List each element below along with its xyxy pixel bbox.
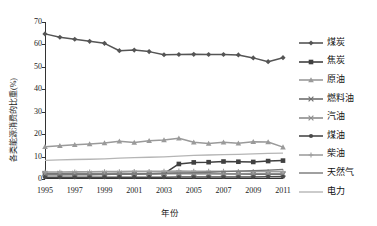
data-point-marker: [251, 175, 255, 179]
data-point-marker: [207, 175, 211, 179]
legend-item-柴油[interactable]: 柴油: [298, 144, 376, 163]
legend-marker-icon: [298, 35, 324, 47]
data-point-marker: [72, 37, 77, 42]
legend-item-原油[interactable]: 原油: [298, 69, 376, 88]
data-point-marker: [266, 59, 271, 64]
data-point-marker: [176, 52, 181, 57]
legend-item-电力[interactable]: 电力: [298, 181, 376, 200]
data-point-marker: [57, 35, 62, 40]
legend-marker-icon: [298, 54, 324, 66]
legend-item-label: 柴油: [327, 146, 345, 159]
x-tick-label: 2011: [266, 186, 300, 195]
legend-marker-icon: [298, 72, 324, 84]
data-point-marker: [206, 52, 211, 57]
data-point-marker: [251, 55, 256, 60]
series-line: [45, 34, 283, 62]
legend-item-天然气[interactable]: 天然气: [298, 162, 376, 181]
legend-item-label: 电力: [327, 184, 345, 197]
data-point-marker: [132, 47, 137, 52]
data-point-marker: [117, 48, 122, 53]
legend-marker-icon: [298, 147, 324, 159]
data-point-marker: [221, 52, 226, 57]
data-point-marker: [117, 175, 121, 179]
legend-item-label: 原油: [327, 72, 345, 85]
data-point-marker: [191, 52, 196, 57]
line-chart-figure: 各类能源消费的比重(%) 010203040506070 19951997199…: [0, 0, 377, 226]
data-point-marker: [192, 175, 196, 179]
legend-item-label: 煤油: [327, 128, 345, 141]
legend-marker-icon: [298, 110, 324, 122]
legend-item-燃料油[interactable]: 燃料油: [298, 88, 376, 107]
data-point-marker: [281, 158, 286, 163]
data-point-marker: [177, 162, 182, 167]
data-point-marker: [236, 52, 241, 57]
plot-area: [45, 22, 283, 179]
data-point-marker: [87, 39, 92, 44]
data-point-marker: [102, 175, 106, 179]
data-point-marker: [206, 160, 211, 165]
series-line: [45, 153, 283, 160]
series-8: [45, 153, 283, 160]
data-point-marker: [309, 60, 314, 65]
legend-item-label: 天然气: [327, 165, 354, 178]
data-point-marker: [281, 175, 285, 179]
data-point-marker: [266, 175, 270, 179]
data-point-marker: [147, 175, 151, 179]
series-2: [42, 135, 286, 149]
legend-item-焦炭[interactable]: 焦炭: [298, 51, 376, 70]
legend-item-煤油[interactable]: 煤油: [298, 125, 376, 144]
data-point-marker: [147, 49, 152, 54]
legend-marker-icon: [298, 184, 324, 196]
data-point-marker: [102, 41, 107, 46]
legend-marker-icon: [298, 165, 324, 177]
chart-legend: 煤炭焦炭原油燃料油汽油煤油柴油天然气电力: [298, 32, 376, 199]
x-axis-title: 年份: [50, 206, 290, 218]
legend-item-汽油[interactable]: 汽油: [298, 106, 376, 125]
data-point-marker: [73, 175, 77, 179]
series-0: [42, 31, 285, 64]
data-point-marker: [88, 175, 92, 179]
data-point-marker: [266, 159, 271, 164]
data-point-marker: [162, 175, 166, 179]
legend-item-label: 燃料油: [327, 91, 354, 104]
legend-item-label: 焦炭: [327, 53, 345, 66]
data-point-marker: [251, 160, 256, 165]
data-point-marker: [43, 175, 47, 179]
legend-marker-icon: [298, 91, 324, 103]
data-point-marker: [132, 175, 136, 179]
data-point-marker: [236, 175, 240, 179]
series-canvas: [45, 22, 283, 179]
data-point-marker: [309, 134, 313, 138]
data-point-marker: [309, 152, 314, 157]
data-point-marker: [236, 159, 241, 164]
data-point-marker: [191, 160, 196, 165]
data-point-marker: [308, 41, 313, 46]
legend-item-煤炭[interactable]: 煤炭: [298, 32, 376, 51]
data-point-marker: [161, 52, 166, 57]
data-point-marker: [177, 175, 181, 179]
data-point-marker: [58, 175, 62, 179]
data-point-marker: [221, 175, 225, 179]
data-point-marker: [221, 159, 226, 164]
legend-item-label: 汽油: [327, 109, 345, 122]
legend-marker-icon: [298, 128, 324, 140]
legend-item-label: 煤炭: [327, 35, 345, 48]
